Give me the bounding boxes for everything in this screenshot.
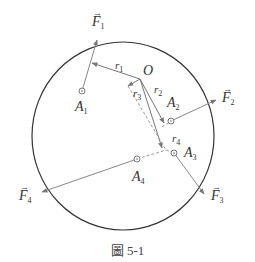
radius-r1-label: r1 bbox=[115, 60, 123, 74]
origin-label: O bbox=[143, 64, 153, 78]
point-a3-marker bbox=[171, 150, 177, 156]
point-a3-label: A3 bbox=[184, 146, 197, 162]
figure-caption: 圖 5-1 bbox=[0, 240, 255, 259]
force-f4-arrow bbox=[42, 159, 137, 192]
force-f4-label: →F4 bbox=[19, 189, 32, 205]
force-f1-label: →F1 bbox=[92, 15, 105, 31]
radius-r3-label: r3 bbox=[133, 88, 141, 102]
point-a1-label: A1 bbox=[75, 100, 88, 116]
force-f3-label: →F3 bbox=[211, 189, 224, 205]
point-a2-label: A2 bbox=[167, 96, 180, 112]
point-a2-marker bbox=[168, 118, 174, 124]
force-f1-arrow bbox=[82, 40, 97, 91]
point-a1-marker bbox=[79, 88, 85, 94]
point-a4-marker bbox=[134, 156, 140, 162]
radius-short-arrow bbox=[128, 79, 140, 86]
radius-r2-label: r2 bbox=[154, 84, 162, 98]
dashed-line-a4 bbox=[137, 150, 166, 159]
force-diagram bbox=[0, 0, 255, 262]
point-a4-label: A4 bbox=[132, 170, 145, 186]
force-f2-label: →F2 bbox=[222, 91, 235, 107]
radius-r4-label: r4 bbox=[172, 133, 180, 147]
